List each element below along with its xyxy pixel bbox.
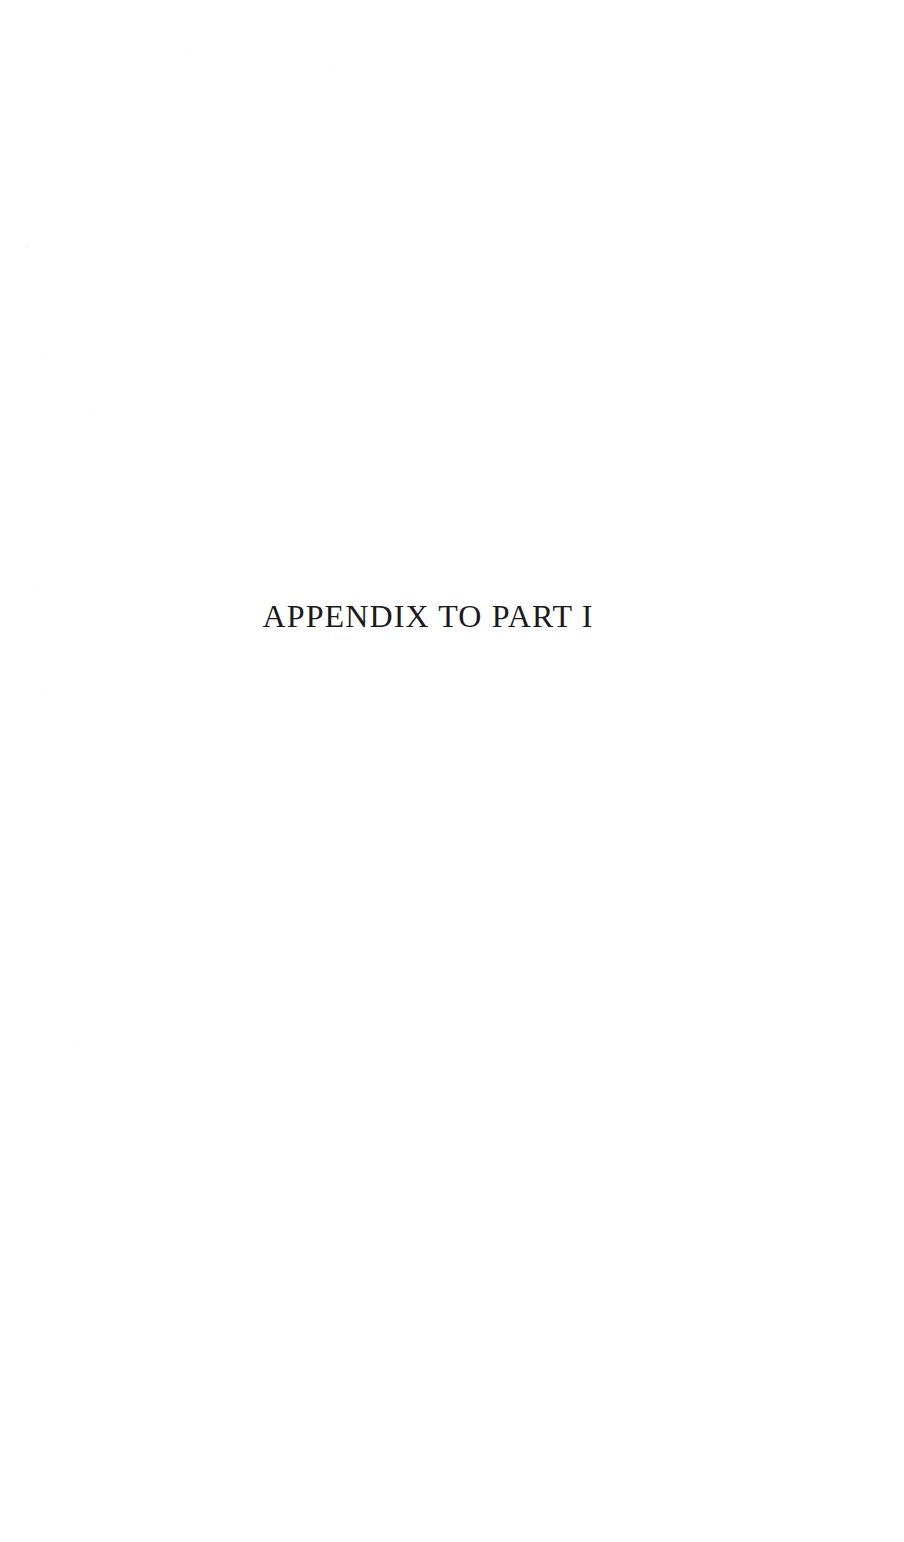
paper-scan-texture (0, 0, 904, 1542)
scanned-page: APPENDIX TO PART I (0, 0, 904, 1542)
divider-title-block: APPENDIX TO PART I (0, 596, 904, 636)
page-title: APPENDIX TO PART I (263, 596, 594, 636)
